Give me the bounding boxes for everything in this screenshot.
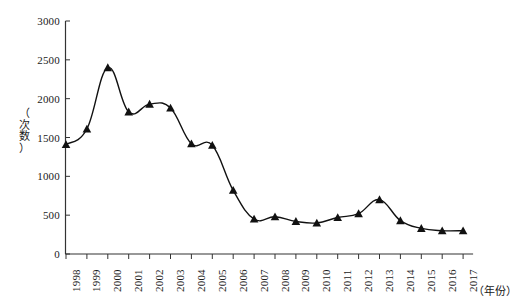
y-tick-label-500: 500 bbox=[28, 210, 60, 221]
x-tick-label-2000: 2000 bbox=[112, 269, 123, 292]
data-point-2006 bbox=[229, 186, 238, 194]
x-tick-label-2007: 2007 bbox=[259, 269, 270, 292]
x-tick-label-2011: 2011 bbox=[342, 270, 353, 292]
plot-area bbox=[0, 0, 517, 298]
x-tick-label-2010: 2010 bbox=[321, 269, 332, 292]
data-point-1999 bbox=[83, 125, 92, 133]
x-tick-label-2015: 2015 bbox=[426, 269, 437, 292]
data-line-series-0 bbox=[66, 67, 463, 231]
x-tick-label-2009: 2009 bbox=[300, 269, 311, 292]
x-tick-label-2006: 2006 bbox=[238, 269, 249, 292]
x-tick-label-2014: 2014 bbox=[405, 269, 416, 292]
data-markers bbox=[62, 63, 468, 234]
line-chart: （ 次 数 ） （年份） 050010001500200025003000 19… bbox=[0, 0, 517, 298]
x-tick-label-2004: 2004 bbox=[196, 269, 207, 292]
x-tick-label-2012: 2012 bbox=[363, 269, 374, 292]
x-tick-label-2003: 2003 bbox=[175, 269, 186, 292]
x-tick-label-2016: 2016 bbox=[447, 269, 458, 292]
axes bbox=[66, 21, 474, 254]
x-tick-label-1999: 1999 bbox=[91, 269, 102, 292]
x-tick-label-2005: 2005 bbox=[217, 269, 228, 292]
x-tick-label-2002: 2002 bbox=[154, 269, 165, 292]
x-tick-label-1998: 1998 bbox=[71, 269, 82, 292]
x-tick-label-2001: 2001 bbox=[133, 269, 144, 292]
y-tick-label-1500: 1500 bbox=[28, 133, 60, 144]
y-tick-label-2000: 2000 bbox=[28, 94, 60, 105]
data-point-2000 bbox=[104, 63, 113, 71]
data-point-1998 bbox=[62, 140, 71, 148]
y-tick-label-0: 0 bbox=[28, 249, 60, 260]
y-tick-label-2500: 2500 bbox=[28, 55, 60, 66]
x-tick-label-2008: 2008 bbox=[280, 269, 291, 292]
data-point-2012 bbox=[354, 209, 363, 217]
y-tick-label-3000: 3000 bbox=[28, 16, 60, 27]
x-tick-label-2017: 2017 bbox=[468, 269, 479, 292]
x-tick-label-2013: 2013 bbox=[384, 269, 395, 292]
y-tick-label-1000: 1000 bbox=[28, 171, 60, 182]
